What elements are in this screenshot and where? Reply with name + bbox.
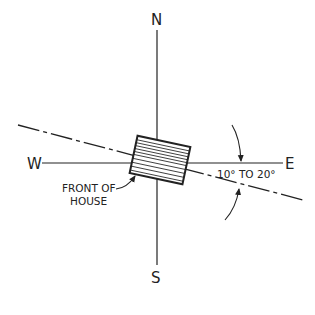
house-footprint (130, 136, 191, 184)
orientation-diagram: N S W E FRONT OF HOUSE 10° TO 20° (0, 0, 315, 315)
front-of-house-leader-arrow (116, 176, 135, 189)
angle-arrow-upper (232, 125, 241, 161)
front-of-house-label-line2: HOUSE (70, 195, 107, 207)
front-of-house-label-line1: FRONT OF (62, 182, 116, 194)
east-label: E (285, 155, 294, 173)
angle-arrow-lower (225, 189, 239, 220)
west-label: W (27, 155, 42, 173)
angle-range-label: 10° TO 20° (217, 168, 276, 180)
north-label: N (151, 11, 162, 29)
south-label: S (151, 269, 161, 287)
